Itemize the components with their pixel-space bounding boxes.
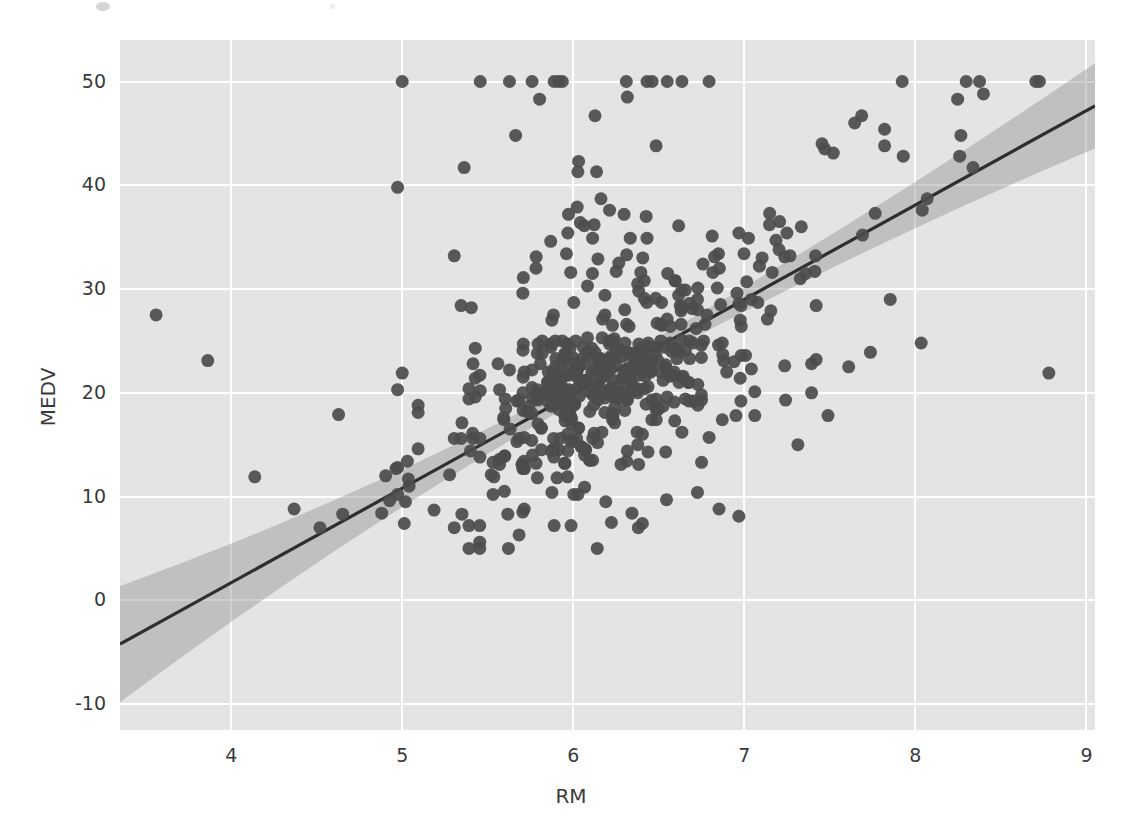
scatter-point xyxy=(586,267,599,280)
scatter-point xyxy=(773,215,786,228)
scatter-point xyxy=(561,470,574,483)
scatter-point xyxy=(561,226,574,239)
scatter-point xyxy=(536,347,549,360)
scatter-point xyxy=(691,281,704,294)
scatter-point xyxy=(897,150,910,163)
scatter-point xyxy=(564,266,577,279)
scatter-point xyxy=(779,394,792,407)
scatter-point xyxy=(682,376,695,389)
scatter-point xyxy=(462,382,475,395)
scatter-point xyxy=(516,506,529,519)
scatter-point xyxy=(530,250,543,263)
scatter-point xyxy=(615,458,628,471)
scatter-point xyxy=(403,480,416,493)
scatter-point xyxy=(869,207,882,220)
scatter-point xyxy=(389,462,402,475)
scatter-point xyxy=(443,468,456,481)
scatter-point xyxy=(706,230,719,243)
scatter-point xyxy=(650,139,663,152)
scatter-point xyxy=(713,502,726,515)
scatter-point xyxy=(401,455,414,468)
scatter-point xyxy=(659,445,672,458)
scatter-point xyxy=(591,252,604,265)
scatter-point xyxy=(396,75,409,88)
scatter-point xyxy=(530,262,543,275)
scatter-point xyxy=(794,272,807,285)
scatter-point xyxy=(720,366,733,379)
scatter-point xyxy=(502,542,515,555)
scatter-point xyxy=(412,442,425,455)
scatter-point xyxy=(621,444,634,457)
scatter-point xyxy=(856,229,869,242)
scatter-point xyxy=(661,390,674,403)
scatter-point xyxy=(636,428,649,441)
scatter-point xyxy=(498,450,511,463)
scatter-point xyxy=(448,521,461,534)
scatter-point xyxy=(391,181,404,194)
scatter-points xyxy=(150,75,1056,555)
scatter-point xyxy=(428,504,441,517)
scatter-point xyxy=(473,451,486,464)
scatter-point xyxy=(516,287,529,300)
scatter-point xyxy=(620,318,633,331)
scatter-point xyxy=(915,336,928,349)
scatter-point xyxy=(598,308,611,321)
scatter-point xyxy=(498,485,511,498)
scatter-point xyxy=(675,318,688,331)
scatter-point xyxy=(473,432,486,445)
scatter-point xyxy=(581,346,594,359)
scatter-point xyxy=(578,219,591,232)
scatter-plot-figure: -1001020304050 456789 MEDV RM xyxy=(0,0,1142,834)
scatter-point xyxy=(621,91,634,104)
scan-artifact-speck-secondary xyxy=(330,4,335,9)
x-tick-label: 4 xyxy=(201,744,261,766)
scatter-point xyxy=(565,417,578,430)
scatter-point xyxy=(598,289,611,302)
scatter-point xyxy=(810,353,823,366)
scatter-point xyxy=(375,507,388,520)
scatter-point xyxy=(809,249,822,262)
scatter-point xyxy=(487,456,500,469)
scatter-point xyxy=(896,75,909,88)
scatter-point xyxy=(517,271,530,284)
scatter-point xyxy=(544,235,557,248)
scatter-point xyxy=(878,139,891,152)
scatter-point xyxy=(513,432,526,445)
scatter-point xyxy=(668,414,681,427)
y-tick-label: -10 xyxy=(36,692,106,714)
scatter-point xyxy=(530,457,543,470)
scatter-point xyxy=(730,287,743,300)
scatter-point xyxy=(288,502,301,515)
scan-artifact-speck xyxy=(96,2,110,11)
y-tick-label: 30 xyxy=(36,277,106,299)
scatter-point xyxy=(951,93,964,106)
scatter-point xyxy=(717,354,730,367)
scatter-point xyxy=(977,87,990,100)
scatter-point xyxy=(842,360,855,373)
scatter-point xyxy=(503,363,516,376)
scatter-point xyxy=(921,192,934,205)
scatter-point xyxy=(778,359,791,372)
scatter-point xyxy=(396,367,409,380)
scatter-point xyxy=(558,457,571,470)
scatter-point xyxy=(632,458,645,471)
scatter-point xyxy=(465,301,478,314)
scatter-point xyxy=(501,508,514,521)
scatter-point xyxy=(455,432,468,445)
scatter-point xyxy=(526,75,539,88)
scatter-point xyxy=(864,346,877,359)
scatter-point xyxy=(581,279,594,292)
scatter-point xyxy=(548,75,561,88)
scatter-point xyxy=(732,510,745,523)
scatter-point xyxy=(655,318,668,331)
scatter-point xyxy=(620,248,633,261)
scatter-point xyxy=(818,142,831,155)
plot-area xyxy=(120,40,1095,730)
scatter-point xyxy=(740,275,753,288)
x-axis-label: RM xyxy=(0,784,1142,808)
scatter-point xyxy=(493,383,506,396)
scatter-point xyxy=(391,383,404,396)
scatter-point xyxy=(591,542,604,555)
scatter-point xyxy=(571,371,584,384)
scatter-point xyxy=(638,292,651,305)
